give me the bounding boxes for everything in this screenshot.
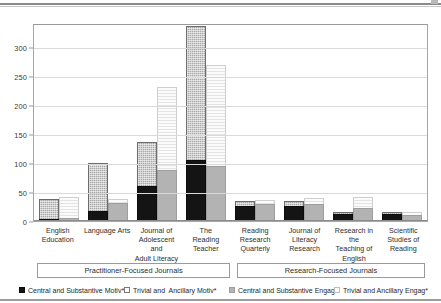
bar-segment xyxy=(382,214,402,220)
stacked-bar-engagement xyxy=(304,198,324,220)
stacked-bar-motivation xyxy=(235,201,255,220)
bar-group xyxy=(378,23,427,220)
legend-swatch-icon xyxy=(334,287,340,293)
chart-legend: Central and Substantive Motiv*Trivial an… xyxy=(0,284,441,296)
bar-group xyxy=(231,23,280,220)
legend-swatch-icon xyxy=(124,287,130,293)
y-axis-tick-label: 0 xyxy=(23,218,27,227)
bar-segment xyxy=(157,170,177,220)
x-axis-category-label: TheReadingTeacher xyxy=(181,226,230,262)
bar-segment xyxy=(353,197,373,208)
plot-area xyxy=(33,24,428,222)
bar-segment xyxy=(353,208,373,220)
gridline xyxy=(34,48,427,49)
stacked-bar-engagement xyxy=(255,200,275,220)
bar-segment xyxy=(88,163,108,211)
gridline xyxy=(34,77,427,78)
legend-item[interactable]: Trivial and Ancillary Motiv* xyxy=(124,287,216,294)
bar-segment xyxy=(157,87,177,170)
x-axis-labels: EnglishEducationLanguage ArtsJournal ofA… xyxy=(33,226,428,262)
legend-label: Trivial and Ancillary Engag* xyxy=(343,287,428,294)
legend-item[interactable]: Trivial and Ancillary Engag* xyxy=(334,287,428,294)
y-axis-tick-label: 100 xyxy=(14,160,27,169)
bar-segment xyxy=(402,215,422,220)
bar-segment xyxy=(39,219,59,220)
stacked-bar-motivation xyxy=(333,212,353,220)
bar-segment xyxy=(59,197,79,218)
gridline xyxy=(34,135,427,136)
bar-segment xyxy=(88,211,108,220)
stacked-bar-engagement xyxy=(206,65,226,220)
page-corner-mark xyxy=(431,0,438,4)
bar-group xyxy=(34,23,83,220)
legend-item[interactable]: Central and Substantive Motiv* xyxy=(19,287,124,294)
gridline xyxy=(34,106,427,107)
bar-segment xyxy=(255,204,275,220)
stacked-bar-engagement xyxy=(59,197,79,220)
x-axis-category-label: Research in theTeaching ofEnglish xyxy=(329,226,378,262)
bar-group xyxy=(280,23,329,220)
bar-group xyxy=(132,23,181,220)
x-axis-category-label: Language Arts xyxy=(82,226,131,262)
y-axis-tick-label: 150 xyxy=(14,131,27,140)
legend-swatch-icon xyxy=(229,287,235,293)
gridline xyxy=(34,193,427,194)
x-axis-category-label: ScientificStudies ofReading xyxy=(379,226,428,262)
top-divider xyxy=(0,3,441,5)
bar-segment xyxy=(108,203,128,220)
stacked-bar-engagement xyxy=(402,212,422,220)
bar-segment xyxy=(333,214,353,220)
y-axis-tick-label: 50 xyxy=(19,189,27,198)
y-axis: 050100150200250300 xyxy=(0,24,33,223)
stacked-bar-engagement xyxy=(108,199,128,220)
bar-segment xyxy=(206,65,226,166)
bar-groups xyxy=(34,23,427,220)
category-brackets: Practitioner-Focused Journals Research-F… xyxy=(33,263,428,278)
legend-swatch-icon xyxy=(19,287,25,293)
bar-segment xyxy=(186,160,206,220)
bar-segment xyxy=(235,206,255,220)
legend-label: Central and Substantive Engag* xyxy=(238,287,338,294)
x-axis-category-label: Journal ofLiteracyResearch xyxy=(280,226,329,262)
bar-segment xyxy=(304,204,324,220)
x-axis-category-label: ReadingResearchQuarterly xyxy=(231,226,280,262)
bar-segment xyxy=(137,186,157,220)
x-axis-baseline xyxy=(34,220,427,221)
bar-segment xyxy=(186,26,206,160)
stacked-bar-motivation xyxy=(88,163,108,220)
bottom-divider xyxy=(0,299,441,301)
y-axis-tick-label: 200 xyxy=(14,102,27,111)
stacked-bar-motivation xyxy=(186,26,206,220)
legend-label: Trivial and Ancillary Motiv* xyxy=(133,287,216,294)
bar-group xyxy=(329,23,378,220)
stacked-bar-motivation xyxy=(137,142,157,220)
bar-segment xyxy=(39,199,59,219)
bar-group xyxy=(181,23,230,220)
legend-item[interactable]: Central and Substantive Engag* xyxy=(229,287,338,294)
bracket-research-focused: Research-Focused Journals xyxy=(237,263,425,278)
x-axis-category-label: EnglishEducation xyxy=(33,226,82,262)
stacked-bar-motivation xyxy=(382,212,402,220)
bracket-practitioner-focused: Practitioner-Focused Journals xyxy=(37,263,230,278)
top-divider-secondary xyxy=(0,6,441,7)
y-axis-tick-label: 250 xyxy=(14,73,27,82)
chart-figure: 050100150200250300 EnglishEducationLangu… xyxy=(0,0,441,303)
stacked-bar-engagement xyxy=(353,197,373,220)
stacked-bar-motivation xyxy=(39,199,59,220)
x-axis-category-label: Journal ofAdolescent andAdult Literacy xyxy=(132,226,181,262)
bar-group xyxy=(83,23,132,220)
gridline xyxy=(34,164,427,165)
legend-label: Central and Substantive Motiv* xyxy=(28,287,124,294)
bar-segment xyxy=(284,206,304,220)
stacked-bar-motivation xyxy=(284,201,304,220)
bar-segment xyxy=(59,218,79,220)
y-axis-tick-label: 300 xyxy=(14,44,27,53)
